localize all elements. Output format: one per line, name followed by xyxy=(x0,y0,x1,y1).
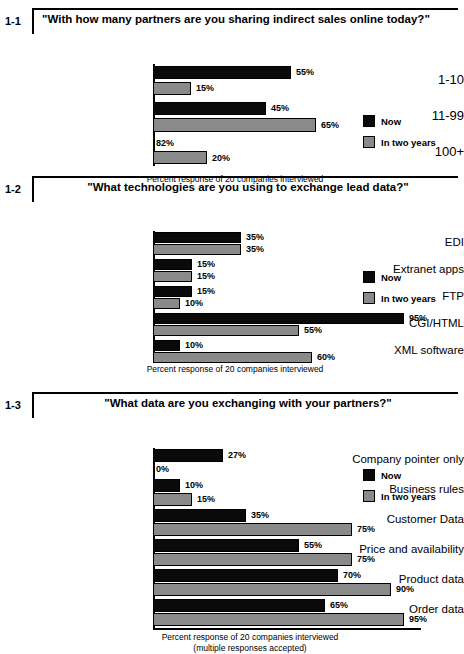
chart-row: Customer Data 35% 75% xyxy=(0,508,464,536)
bar-future xyxy=(153,583,391,596)
chart-caption: Percent response of 20 companies intervi… xyxy=(120,632,380,654)
bar-value-now: 35% xyxy=(246,233,264,242)
legend-label-now: Now xyxy=(381,272,401,283)
section-title: "What data are you exchanging with your … xyxy=(40,397,456,409)
section-title: "With how many partners are you sharing … xyxy=(40,13,456,25)
chart-1-1: 1-10 55% 15% 11-99 45% 65% 100+ 82% 20% xyxy=(0,34,464,164)
header-left-bar xyxy=(32,8,34,34)
bar-future xyxy=(153,325,299,336)
bar-future xyxy=(153,244,241,255)
chart-axis-bottom xyxy=(153,628,421,630)
bar-future xyxy=(153,523,352,536)
bar-value-now: 10% xyxy=(185,481,203,490)
section-number: 1-3 xyxy=(5,399,21,411)
section-number: 1-1 xyxy=(5,15,21,27)
chart-row: XML software 10% 60% xyxy=(0,339,464,365)
bar-value-future: 10% xyxy=(185,299,203,308)
bar-value-future: 60% xyxy=(317,353,335,362)
bar-value-future: 55% xyxy=(304,326,322,335)
bar-future xyxy=(153,553,352,566)
bar-future xyxy=(153,82,191,95)
bar-value-future: 15% xyxy=(197,495,215,504)
legend-swatch-future-icon xyxy=(363,490,375,502)
bar-now xyxy=(153,259,192,270)
legend-label-now: Now xyxy=(381,116,401,127)
legend-swatch-future-icon xyxy=(363,136,375,148)
bar-now xyxy=(153,449,223,462)
category-label: 1-10 xyxy=(319,73,464,86)
legend-swatch-now-icon xyxy=(363,115,375,127)
bar-value-now: 82% xyxy=(156,139,174,148)
chart-caption: Percent response of 20 companies intervi… xyxy=(90,364,380,375)
bar-value-future: 75% xyxy=(357,555,375,564)
bar-now xyxy=(153,232,241,243)
bar-now xyxy=(153,66,291,79)
bar-now xyxy=(153,313,404,324)
bar-value-future: 90% xyxy=(396,585,414,594)
section-1-2-header: 1-2 "What technologies are you using to … xyxy=(0,176,464,202)
bar-value-future: 15% xyxy=(196,84,214,93)
chart-row: 1-10 55% 15% xyxy=(0,64,464,98)
category-label: EDI xyxy=(317,237,464,249)
chart-row: Product data 70% 90% xyxy=(0,568,464,596)
bar-value-now: 10% xyxy=(185,341,203,350)
bar-now xyxy=(153,569,338,582)
bar-value-now: 45% xyxy=(271,104,289,113)
chart-1-2: EDI 35% 35% Extranet apps 15% 15% FTP 15… xyxy=(0,202,464,387)
bar-now xyxy=(153,340,180,351)
bar-value-future: 75% xyxy=(357,525,375,534)
bar-value-now: 35% xyxy=(251,511,269,520)
section-1-3: 1-3 "What data are you exchanging with y… xyxy=(0,392,464,633)
chart-row: EDI 35% 35% xyxy=(0,231,464,257)
bar-now xyxy=(153,286,192,297)
bar-value-now: 15% xyxy=(197,287,215,296)
bar-now xyxy=(153,599,325,612)
legend-swatch-now-icon xyxy=(363,271,375,283)
section-1-1-header: 1-1 "With how many partners are you shar… xyxy=(0,8,464,34)
chart-row: Price and availability 55% 75% xyxy=(0,538,464,566)
section-title: "What technologies are you using to exch… xyxy=(40,181,456,193)
bar-value-future: 35% xyxy=(246,245,264,254)
chart-1-3: Company pointer only 27% 0% Business rul… xyxy=(0,418,464,633)
legend-label-future: In two years xyxy=(381,137,436,148)
bar-now xyxy=(153,102,266,115)
bar-value-future: 65% xyxy=(321,121,339,130)
section-number: 1-2 xyxy=(5,183,21,195)
category-label: Company pointer only xyxy=(317,454,464,466)
bar-future xyxy=(153,613,404,626)
bar-value-now: 55% xyxy=(304,541,322,550)
bar-value-now: 55% xyxy=(296,68,314,77)
chart-row: CGI/HTML 95% 55% xyxy=(0,312,464,338)
header-rule xyxy=(32,176,458,178)
bar-future xyxy=(153,352,312,363)
category-label: XML software xyxy=(317,345,464,357)
bar-value-now: 15% xyxy=(197,260,215,269)
legend-label-future: In two years xyxy=(381,491,436,502)
bar-value-future: 0% xyxy=(156,465,169,474)
section-1-3-header: 1-3 "What data are you exchanging with y… xyxy=(0,392,464,418)
bar-value-future: 95% xyxy=(409,615,427,624)
bar-value-future: 20% xyxy=(212,154,230,163)
header-rule xyxy=(32,392,458,394)
bar-future xyxy=(153,118,316,132)
header-left-bar xyxy=(32,176,34,202)
legend-label-now: Now xyxy=(381,470,401,481)
legend-swatch-now-icon xyxy=(363,469,375,481)
bar-future xyxy=(153,298,180,309)
bar-future xyxy=(153,151,207,164)
chart-row: Order data 65% 95% xyxy=(0,598,464,626)
bar-value-now: 65% xyxy=(330,601,348,610)
header-rule xyxy=(32,8,458,10)
bar-now xyxy=(153,479,180,492)
legend-label-future: In two years xyxy=(381,293,436,304)
bar-now xyxy=(153,539,299,552)
bar-now xyxy=(153,509,246,522)
header-left-bar xyxy=(32,392,34,418)
legend-swatch-future-icon xyxy=(363,292,375,304)
bar-future xyxy=(153,493,192,506)
bar-value-now: 27% xyxy=(228,451,246,460)
bar-future xyxy=(153,271,192,282)
bar-value-now: 70% xyxy=(343,571,361,580)
bar-value-now: 95% xyxy=(409,314,427,323)
